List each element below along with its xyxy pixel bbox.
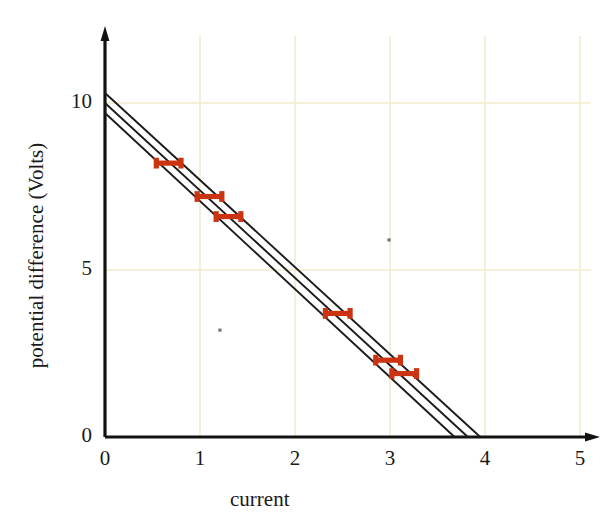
y-axis-title: potential difference (Volts) — [24, 126, 49, 386]
stray-speck — [387, 238, 390, 241]
gridlines — [105, 36, 591, 437]
y-axis-arrowhead — [101, 26, 110, 41]
fit-lines — [105, 93, 480, 437]
x-axis-arrowhead — [585, 433, 600, 442]
y-tick-label: 10 — [58, 89, 92, 114]
x-axis-title: current — [230, 487, 289, 512]
x-tick-label: 4 — [470, 446, 500, 471]
x-tick-label: 2 — [280, 446, 310, 471]
y-tick-label: 5 — [58, 256, 92, 281]
x-tick-label: 3 — [375, 446, 405, 471]
y-tick-label: 0 — [58, 423, 92, 448]
chart-figure: potential difference (Volts) current 012… — [0, 0, 609, 531]
x-tick-label: 1 — [185, 446, 215, 471]
x-tick-label: 0 — [90, 446, 120, 471]
x-tick-label: 5 — [565, 446, 595, 471]
stray-speck — [218, 329, 221, 332]
axes — [101, 26, 600, 441]
stray-marks — [218, 238, 390, 331]
fit-line — [105, 93, 480, 437]
data-points — [156, 158, 416, 379]
